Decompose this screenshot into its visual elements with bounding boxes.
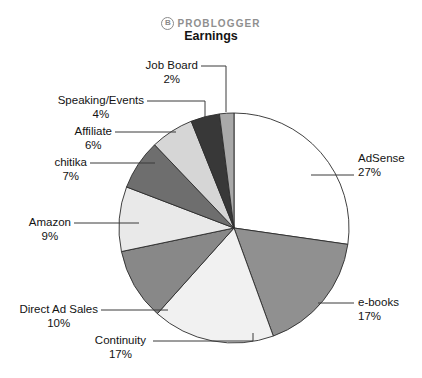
slice-label-direct-ad-sales-name: Direct Ad Sales	[19, 303, 98, 315]
slice-label-affiliate-pct: 6%	[74, 139, 112, 153]
slice-label-continuity: Continuity 17%	[95, 334, 146, 361]
chart-page: B PROBLOGGER Earnings	[0, 0, 422, 378]
slice-label-speaking-events: Speaking/Events 4%	[58, 94, 144, 121]
slice-label-job-board: Job Board 2%	[146, 59, 198, 86]
slice-label-continuity-name: Continuity	[95, 334, 146, 346]
slice-label-speaking-events-name: Speaking/Events	[58, 94, 144, 106]
slice-label-affiliate: Affiliate 6%	[74, 125, 112, 152]
slice-label-chitika: chitika 7%	[54, 156, 87, 183]
slice-label-ebooks-name: e-books	[358, 296, 399, 308]
leader-line-speaking-events	[147, 101, 205, 117]
slice-label-adsense-pct: 27%	[358, 166, 405, 180]
slice-label-adsense: AdSense 27%	[358, 152, 405, 179]
slice-label-amazon-pct: 9%	[29, 230, 71, 244]
slice-label-job-board-name: Job Board	[146, 59, 198, 71]
slice-label-direct-ad-sales: Direct Ad Sales 10%	[19, 303, 98, 330]
slice-label-adsense-name: AdSense	[358, 152, 405, 164]
slice-label-amazon: Amazon 9%	[29, 216, 71, 243]
slice-label-chitika-name: chitika	[54, 156, 87, 168]
slice-label-ebooks-pct: 17%	[358, 310, 399, 324]
pie-slices	[119, 113, 349, 343]
slice-label-affiliate-name: Affiliate	[74, 125, 112, 137]
slice-label-job-board-pct: 2%	[146, 73, 198, 87]
slice-label-direct-ad-sales-pct: 10%	[19, 317, 98, 331]
slice-label-chitika-pct: 7%	[54, 170, 87, 184]
pie-slice-adsense[interactable]	[234, 113, 349, 244]
slice-label-ebooks: e-books 17%	[358, 296, 399, 323]
slice-label-amazon-name: Amazon	[29, 216, 71, 228]
slice-label-continuity-pct: 17%	[95, 348, 146, 362]
slice-label-speaking-events-pct: 4%	[58, 108, 144, 122]
